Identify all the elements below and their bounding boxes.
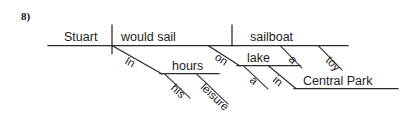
word-prep-in-lower: in bbox=[271, 73, 286, 88]
word-subject: Stuart bbox=[64, 30, 98, 44]
word-prep-on: on bbox=[213, 51, 230, 68]
slant-prep-in-upper bbox=[112, 46, 162, 75]
word-leisure: leisure bbox=[199, 81, 232, 113]
word-lake: lake bbox=[247, 51, 270, 65]
diagram-page: Stuart would sail sailboat a toy In hour… bbox=[0, 0, 416, 121]
word-central-park: Central Park bbox=[303, 74, 373, 88]
word-hours: hours bbox=[172, 59, 203, 73]
word-direct-object: sailboat bbox=[250, 30, 294, 44]
word-prep-in-upper: In bbox=[123, 54, 137, 69]
word-verb: would sail bbox=[120, 30, 176, 44]
sentence-diagram: Stuart would sail sailboat a toy In hour… bbox=[0, 0, 416, 121]
word-his: his bbox=[169, 82, 188, 101]
word-toy: toy bbox=[324, 54, 344, 74]
question-number: 8) bbox=[21, 10, 31, 23]
